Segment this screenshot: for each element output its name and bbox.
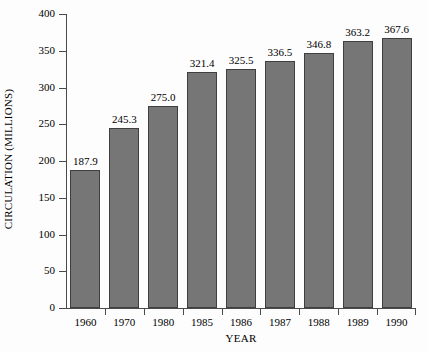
y-axis-tick-mark (59, 308, 66, 309)
bar (382, 38, 412, 308)
y-axis-tick-mark (59, 124, 66, 125)
y-axis-tick-mark (59, 235, 66, 236)
y-axis-tick: 400 (0, 14, 66, 15)
y-axis-tick-label: 150 (5, 192, 55, 203)
bar-value-label: 367.6 (373, 23, 421, 35)
x-axis-tick-mark (338, 308, 339, 315)
x-axis-tick-mark (222, 308, 223, 315)
bar-value-label: 275.0 (139, 91, 187, 103)
bar-chart: CIRCULATION (MILLIONS) 05010015020025030… (0, 0, 428, 352)
y-axis-tick-label: 400 (5, 8, 55, 19)
y-axis-tick-label: 300 (5, 82, 55, 93)
y-axis-tick: 150 (0, 198, 66, 199)
y-axis-tick: 250 (0, 124, 66, 125)
x-axis-tick-label: 1990 (373, 316, 421, 328)
x-axis-tick-mark (415, 308, 416, 315)
bar (304, 53, 334, 308)
bar (265, 61, 295, 308)
y-axis-tick-label: 200 (5, 155, 55, 166)
x-axis-title: YEAR (66, 332, 416, 344)
x-axis-tick-mark (377, 308, 378, 315)
x-axis-tick-mark (144, 308, 145, 315)
bar (148, 106, 178, 308)
y-axis-tick: 300 (0, 88, 66, 89)
y-axis-tick: 200 (0, 161, 66, 162)
x-axis-tick-mark (299, 308, 300, 315)
y-axis-tick: 0 (0, 308, 66, 309)
y-axis-tick: 350 (0, 51, 66, 52)
y-axis-tick-mark (59, 271, 66, 272)
y-axis-tick-mark (59, 88, 66, 89)
bar (343, 41, 373, 308)
y-axis-tick-mark (59, 51, 66, 52)
bar-value-label: 346.8 (295, 38, 343, 50)
bar (70, 170, 100, 308)
y-axis-tick: 100 (0, 235, 66, 236)
y-axis-tick-label: 250 (5, 118, 55, 129)
y-axis-tick-mark (59, 14, 66, 15)
y-axis-tick: 50 (0, 271, 66, 272)
y-axis-tick-label: 50 (5, 265, 55, 276)
y-axis-tick-label: 100 (5, 229, 55, 240)
x-axis-tick-mark (183, 308, 184, 315)
x-axis-line (66, 308, 416, 309)
y-axis-tick-label: 0 (5, 302, 55, 313)
x-axis-tick-mark (260, 308, 261, 315)
bar-value-label: 245.3 (100, 113, 148, 125)
y-axis-tick-mark (59, 198, 66, 199)
x-axis-tick-mark (105, 308, 106, 315)
bar (187, 72, 217, 308)
bar-value-label: 187.9 (61, 155, 109, 167)
y-axis-tick-label: 350 (5, 45, 55, 56)
bar (109, 128, 139, 308)
bar (226, 69, 256, 308)
